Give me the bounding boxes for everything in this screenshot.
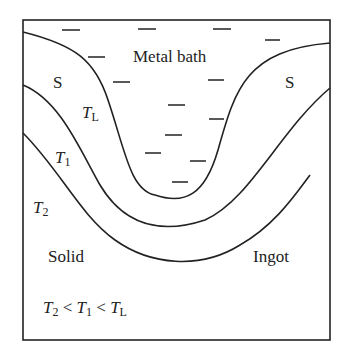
label-solid: Solid <box>48 247 84 266</box>
label-tl: TL <box>82 103 99 124</box>
label-s-right: S <box>285 73 294 92</box>
label-s-left: S <box>53 73 62 92</box>
label-ingot: Ingot <box>253 247 289 266</box>
label-t2: T2 <box>33 198 48 219</box>
label-t1: T1 <box>55 148 70 169</box>
label-metal-bath: Metal bath <box>133 47 207 66</box>
ingot-diagram: Metal bath S S TL T1 T2 Solid Ingot T2 <… <box>0 0 349 360</box>
ingot-box <box>23 20 330 340</box>
temperature-relation: T2 < T1 < TL <box>43 298 127 319</box>
